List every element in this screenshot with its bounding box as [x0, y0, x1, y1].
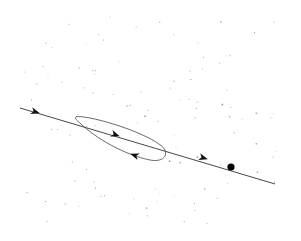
speckle — [130, 105, 132, 107]
speckle — [176, 147, 177, 148]
speckle — [36, 83, 37, 84]
speckle — [270, 117, 271, 118]
speckle — [226, 55, 227, 56]
speckle — [49, 114, 50, 115]
speckle — [86, 169, 87, 170]
speckle — [95, 70, 97, 72]
speckle — [147, 110, 148, 111]
speckle — [103, 40, 104, 41]
speckle — [194, 203, 195, 204]
speckle — [217, 198, 218, 199]
speckle — [140, 92, 141, 93]
speckle — [43, 66, 44, 67]
speckle — [174, 81, 175, 82]
speckle — [119, 61, 120, 62]
speckle — [47, 221, 48, 222]
speckle — [72, 161, 73, 162]
speckle — [222, 104, 224, 106]
speckle — [195, 118, 196, 119]
speckle — [31, 100, 32, 101]
speckle — [242, 119, 243, 120]
speckle — [197, 156, 199, 158]
speckle — [234, 132, 235, 133]
speckle — [137, 122, 138, 123]
speckle — [48, 75, 49, 76]
speckle — [173, 34, 174, 35]
speckle — [190, 79, 191, 80]
speckle — [274, 22, 275, 23]
speckle — [112, 94, 113, 95]
speckle — [207, 223, 208, 224]
speckle — [174, 196, 175, 197]
speckle — [219, 62, 221, 64]
speckle — [189, 99, 190, 100]
speckle — [196, 108, 197, 109]
speckle — [78, 206, 79, 207]
speckle — [84, 87, 85, 88]
speckle — [180, 99, 181, 100]
speckle — [24, 72, 25, 73]
speckle — [276, 151, 277, 152]
speckle — [180, 162, 182, 164]
speckle — [95, 125, 96, 126]
speckle — [45, 43, 47, 45]
speckle — [227, 183, 228, 184]
speckle — [170, 88, 171, 89]
speckle — [65, 204, 66, 205]
speckle — [27, 192, 28, 193]
arrow-loop-return-icon — [129, 150, 140, 160]
speckle — [133, 198, 134, 199]
speckle — [61, 82, 62, 83]
speckle — [197, 42, 198, 43]
speckle — [45, 201, 46, 202]
trajectory-diagram — [0, 0, 301, 241]
speckle — [51, 47, 52, 48]
speckle — [230, 107, 231, 108]
speckle — [101, 196, 102, 197]
speckle — [197, 101, 199, 103]
speckle — [256, 143, 258, 145]
speckle — [159, 22, 160, 23]
speckle — [129, 105, 130, 106]
speckle — [273, 113, 274, 114]
speckle — [257, 172, 259, 174]
speckle — [94, 74, 95, 75]
speckle — [70, 135, 71, 136]
speckle — [95, 188, 96, 189]
speckle — [110, 17, 111, 18]
speckle — [174, 134, 175, 135]
end-point-marker — [227, 163, 234, 170]
speckle — [157, 201, 158, 202]
speckle — [254, 32, 255, 33]
speckle — [69, 24, 70, 25]
speckle — [86, 126, 87, 127]
speckle — [203, 57, 204, 58]
speckle — [220, 21, 222, 23]
speckle — [155, 189, 156, 190]
speckle — [159, 193, 160, 194]
speckle — [136, 27, 137, 28]
loop-path — [75, 117, 165, 161]
speckle — [77, 114, 78, 115]
speckle — [150, 149, 151, 150]
speckle — [169, 161, 171, 163]
speckle — [92, 70, 94, 72]
speckle — [94, 182, 95, 183]
speckle — [93, 92, 94, 93]
speckle — [194, 210, 195, 211]
speckle — [147, 215, 148, 216]
speckle — [273, 157, 274, 158]
speckle — [227, 90, 228, 91]
speckle — [98, 34, 99, 35]
speckle — [229, 116, 230, 117]
speckle — [229, 55, 231, 57]
speckle — [79, 67, 80, 68]
speckle — [204, 189, 205, 190]
main-path — [20, 108, 275, 184]
speckle — [74, 180, 75, 181]
speckle — [184, 221, 185, 222]
speckle — [220, 164, 221, 165]
arrow-loop-forward-icon — [110, 130, 121, 140]
speckle — [274, 182, 275, 183]
speckle — [146, 207, 148, 209]
